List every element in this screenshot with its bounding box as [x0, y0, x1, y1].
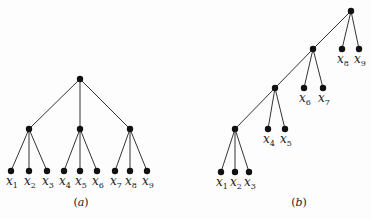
- leaf-label: x6: [299, 91, 311, 107]
- leaf-label: x8: [125, 174, 137, 190]
- leaf-label-subscript: 9: [361, 59, 366, 68]
- tree-edge: [313, 11, 351, 49]
- leaf-label: x9: [354, 52, 366, 68]
- leaf-label: x2: [24, 174, 36, 190]
- leaf-label-subscript: 5: [287, 139, 292, 148]
- leaf-label: x6: [92, 174, 104, 190]
- tree-edge: [235, 129, 249, 172]
- leaf-label-subscript: 1: [13, 181, 18, 190]
- leaf-label-subscript: 7: [325, 98, 330, 107]
- tree-edge: [342, 11, 351, 49]
- leaf-label-subscript: 2: [237, 182, 242, 191]
- leaf-label: x5: [280, 132, 292, 148]
- internal-node: [77, 76, 83, 82]
- tree-edge: [351, 11, 359, 49]
- leaf-label-subscript: 3: [251, 182, 256, 191]
- leaf-label: x5: [75, 174, 87, 190]
- leaf-label: x3: [42, 174, 54, 190]
- leaf-label-subscript: 9: [149, 181, 154, 190]
- leaf-label: x1: [6, 174, 18, 190]
- leaf-label: x1: [216, 175, 228, 191]
- tree-caption: (a): [73, 196, 88, 209]
- leaf-label: x4: [59, 174, 71, 190]
- internal-node: [26, 126, 32, 132]
- tree-diagram-canvas: x1x2x3x4x5x6x7x8x9(a) x8x9x6x7x4x5x1x2x3…: [0, 0, 371, 219]
- internal-node: [310, 46, 316, 52]
- internal-node: [232, 126, 238, 132]
- internal-node: [348, 8, 354, 14]
- tree-b-unbalanced: x8x9x6x7x4x5x1x2x3(b): [216, 8, 366, 209]
- leaf-label: x7: [110, 174, 122, 190]
- leaf-label: x2: [230, 175, 242, 191]
- internal-node: [272, 85, 278, 91]
- leaf-label: x3: [244, 175, 256, 191]
- tree-edge: [80, 129, 97, 171]
- tree-caption: (b): [291, 196, 307, 209]
- tree-edge: [29, 129, 47, 171]
- leaf-label-subscript: 3: [49, 181, 54, 190]
- leaf-label-subscript: 6: [306, 98, 311, 107]
- tree-edge: [80, 79, 130, 129]
- tree-edge: [313, 49, 323, 88]
- leaf-label-subscript: 5: [82, 181, 87, 190]
- leaf-label-subscript: 1: [223, 182, 228, 191]
- leaf-label-subscript: 8: [344, 59, 349, 68]
- tree-edge: [275, 88, 285, 129]
- tree-edge: [130, 129, 147, 171]
- leaf-label-subscript: 2: [31, 181, 36, 190]
- tree-edge: [11, 129, 29, 171]
- leaf-label-subscript: 8: [132, 181, 137, 190]
- tree-edge: [304, 49, 313, 88]
- leaf-label: x8: [337, 52, 349, 68]
- tree-edge: [64, 129, 80, 171]
- internal-node: [127, 126, 133, 132]
- leaf-label: x7: [318, 91, 330, 107]
- leaf-label: x4: [263, 132, 275, 148]
- leaf-label-subscript: 6: [99, 181, 104, 190]
- tree-edge: [275, 49, 313, 88]
- tree-a-balanced: x1x2x3x4x5x6x7x8x9(a): [6, 76, 154, 209]
- tree-edge: [29, 79, 80, 129]
- tree-edge: [115, 129, 130, 171]
- tree-edge: [221, 129, 235, 172]
- internal-node: [77, 126, 83, 132]
- leaf-label-subscript: 4: [66, 181, 71, 190]
- leaf-label-subscript: 7: [117, 181, 122, 190]
- leaf-label-subscript: 4: [270, 139, 275, 148]
- leaf-label: x9: [142, 174, 154, 190]
